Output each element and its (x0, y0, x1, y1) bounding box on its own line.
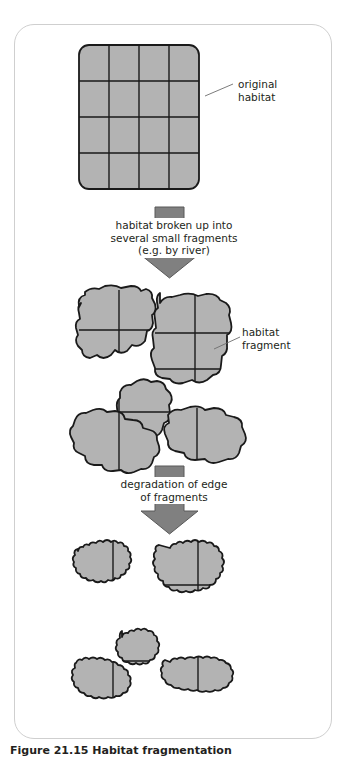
arrow-label-degradation: degradation of edge of fragments (79, 477, 269, 504)
figure-card (14, 24, 332, 739)
label-original-habitat: original habitat (238, 78, 277, 103)
label-habitat-fragment: habitat fragment (242, 326, 291, 351)
arrow-label-fragmentation: habitat broken up into several small fra… (79, 218, 269, 258)
figure-caption: Figure 21.15 Habitat fragmentation (10, 744, 232, 757)
